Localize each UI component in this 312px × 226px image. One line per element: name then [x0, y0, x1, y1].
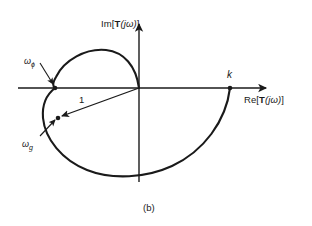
omega-g-symbol: ω — [22, 139, 29, 149]
omega-phi-subscript: ϕ — [31, 61, 35, 68]
omega-g-marker-dot — [56, 116, 61, 121]
plot-canvas — [0, 0, 312, 226]
nyquist-plot-figure: Im[T(jω)] Re[T(jω)] ωϕ ωg 1 k (b) — [0, 0, 312, 226]
unit-radius-vector — [62, 88, 139, 116]
imaginary-axis-label: Im[T(jω)] — [101, 19, 139, 29]
omega-phi-symbol: ω — [24, 56, 31, 66]
omega-g-label: ωg — [22, 140, 33, 151]
omega-phi-marker-dot — [53, 86, 58, 91]
omega-phi-leader-arrow — [40, 63, 53, 84]
nyquist-curve-upper-loop — [53, 50, 139, 88]
nyquist-curve-lower-arc — [43, 88, 230, 176]
imaginary-axis-label-arg: (jω) — [120, 18, 136, 29]
unit-radius-label: 1 — [79, 95, 84, 105]
figure-caption: (b) — [143, 203, 155, 213]
k-marker-dot — [228, 86, 233, 91]
real-axis-label-arg: (jω) — [265, 94, 281, 105]
omega-phi-label: ωϕ — [24, 57, 35, 68]
k-label: k — [227, 70, 232, 80]
real-axis-label: Re[T(jω)] — [244, 95, 284, 105]
omega-g-subscript: g — [29, 144, 33, 151]
